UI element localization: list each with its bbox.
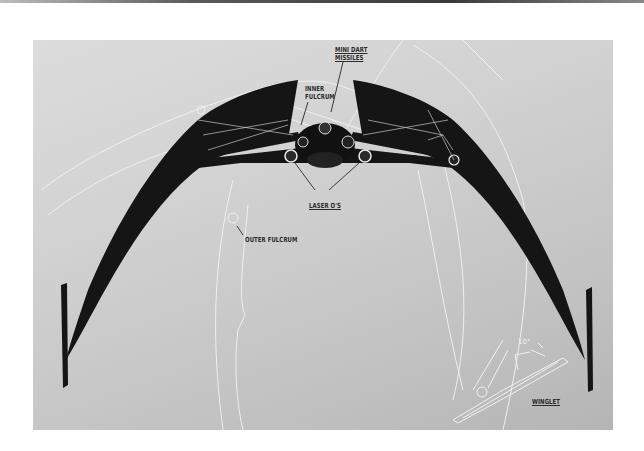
label-laser-os: LASER O'S	[309, 202, 341, 210]
right-winglet-tip	[586, 287, 593, 392]
winglet-detail	[453, 340, 568, 423]
laser-o-left	[285, 150, 297, 162]
right-wing	[348, 80, 585, 360]
label-outer-fulcrum: OUTER FULCRUM	[245, 236, 297, 244]
laser-o-right	[359, 150, 371, 162]
concept-art-frame: MINI DART MISSILES INNER FULCRUM LASER O…	[33, 40, 613, 430]
top-border-rule	[0, 0, 644, 3]
label-winglet: WINGLET	[532, 398, 560, 406]
left-wing	[66, 80, 303, 360]
label-mini-dart-missiles: MINI DART MISSILES	[335, 46, 368, 62]
left-fulcrum-joint	[197, 106, 205, 114]
label-winglet-angle: 10°	[518, 338, 530, 346]
outer-fulcrum-joint	[228, 213, 238, 223]
label-inner-fulcrum: INNER FULCRUM	[305, 85, 335, 101]
left-winglet-tip	[61, 283, 68, 388]
